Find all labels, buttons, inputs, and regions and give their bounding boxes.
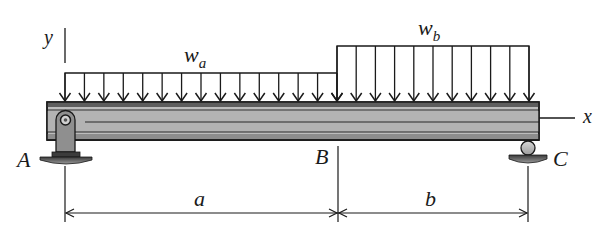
roller-support-c: C xyxy=(509,141,568,171)
point-label-a: A xyxy=(15,147,31,172)
load-label-wb: wb xyxy=(418,15,441,44)
dimension-lines: a b xyxy=(65,146,528,222)
y-axis: y xyxy=(42,26,65,63)
dimension-label-b: b xyxy=(425,186,436,211)
x-axis-label: x xyxy=(582,105,592,127)
distributed-load-wb: wb xyxy=(332,15,535,102)
point-label-c: C xyxy=(553,146,568,171)
beam-diagram: y wa wb x A C xyxy=(0,0,607,233)
load-arrows-wb xyxy=(332,46,535,101)
distributed-load-wa: wa xyxy=(60,42,343,102)
y-axis-label: y xyxy=(42,26,53,49)
point-b-marker: B xyxy=(315,144,328,169)
load-label-wa: wa xyxy=(184,42,206,71)
x-axis: x xyxy=(539,105,592,127)
load-arrows-wa xyxy=(60,73,343,101)
beam xyxy=(47,102,539,140)
dimension-label-a: a xyxy=(194,186,205,211)
point-label-b: B xyxy=(315,144,328,169)
